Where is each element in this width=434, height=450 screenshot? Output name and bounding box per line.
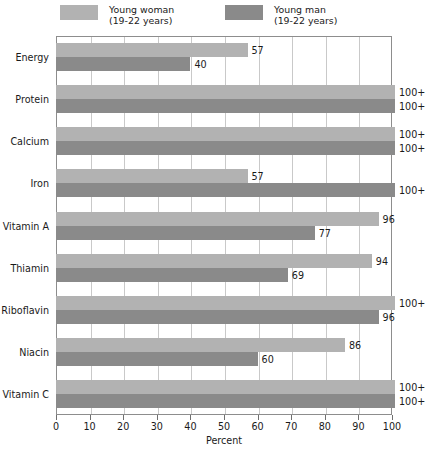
legend-item-young-woman: Young woman(19-22 years) <box>60 5 174 26</box>
bar-group: 100+100+ <box>56 85 392 113</box>
bar-protein-young-woman <box>56 85 395 99</box>
x-axis-tick-label: 70 <box>285 421 297 432</box>
bar-row: 86 <box>56 338 392 352</box>
bar-thiamin-young-woman <box>56 254 372 268</box>
bar-value-label: 96 <box>379 213 395 224</box>
x-axis-tick-label: 10 <box>83 421 95 432</box>
x-axis-tick <box>325 415 326 420</box>
bar-value-label: 100+ <box>395 143 425 154</box>
bar-row: 57 <box>56 169 392 183</box>
bar-value-label: 100+ <box>395 101 425 112</box>
x-axis-tick-label: 40 <box>184 421 196 432</box>
bar-thiamin-young-man <box>56 268 288 282</box>
x-axis-tick-label: 30 <box>151 421 163 432</box>
bar-group: 9469 <box>56 254 392 282</box>
bar-group: 5740 <box>56 43 392 71</box>
bar-niacin-young-woman <box>56 338 345 352</box>
bar-value-label: 100+ <box>395 185 425 196</box>
bars-layer: 5740100+100+100+100+57100+96779469100+96… <box>56 36 392 415</box>
bar-row: 69 <box>56 268 392 282</box>
x-axis-tick <box>157 415 158 420</box>
bar-value-label: 60 <box>258 353 274 364</box>
x-axis-tick <box>358 415 359 420</box>
bar-group: 100+100+ <box>56 127 392 155</box>
bar-row: 100+ <box>56 394 392 408</box>
x-axis-tick-label: 20 <box>117 421 129 432</box>
legend-item-young-man: Young man(19-22 years) <box>225 5 337 26</box>
y-axis-label-vitamin-c: Vitamin C <box>3 388 50 399</box>
bar-value-label: 40 <box>190 59 206 70</box>
bar-value-label: 86 <box>345 339 361 350</box>
bar-value-label: 69 <box>288 269 304 280</box>
bar-vitamin-c-young-man <box>56 394 395 408</box>
bar-calcium-young-woman <box>56 127 395 141</box>
bar-group: 8660 <box>56 338 392 366</box>
bar-value-label: 100+ <box>395 87 425 98</box>
bar-value-label: 57 <box>248 171 264 182</box>
x-axis-tick <box>291 415 292 420</box>
bar-group: 100+100+ <box>56 380 392 408</box>
legend-label-young-man: Young man(19-22 years) <box>274 5 337 26</box>
bar-value-label: 77 <box>315 227 331 238</box>
bar-riboflavin-young-woman <box>56 296 395 310</box>
bar-value-label: 100+ <box>395 129 425 140</box>
x-axis-tick-label: 80 <box>319 421 331 432</box>
bar-value-label: 100+ <box>395 297 425 308</box>
legend-label-young-woman: Young woman(19-22 years) <box>109 5 174 26</box>
legend-swatch-young-woman <box>60 5 98 20</box>
bar-row: 100+ <box>56 296 392 310</box>
bar-vitamin-a-young-woman <box>56 212 379 226</box>
x-axis-title: Percent <box>56 435 392 446</box>
bar-value-label: 100+ <box>395 381 425 392</box>
bar-group: 57100+ <box>56 169 392 197</box>
bar-row: 100+ <box>56 85 392 99</box>
bar-group: 9677 <box>56 212 392 240</box>
bar-row: 100+ <box>56 127 392 141</box>
y-axis-label-iron: Iron <box>30 178 49 189</box>
bar-row: 40 <box>56 57 392 71</box>
x-axis-tick-label: 100 <box>383 421 401 432</box>
bar-niacin-young-man <box>56 352 258 366</box>
bar-iron-young-woman <box>56 169 248 183</box>
legend-swatch-young-man <box>225 5 263 20</box>
y-axis-label-protein: Protein <box>15 94 49 105</box>
x-axis-tick-label: 90 <box>352 421 364 432</box>
x-axis-tick <box>258 415 259 420</box>
bar-row: 94 <box>56 254 392 268</box>
y-axis-labels: EnergyProteinCalciumIronVitamin AThiamin… <box>0 36 52 415</box>
bar-value-label: 57 <box>248 45 264 56</box>
x-axis-tick <box>123 415 124 420</box>
bar-row: 100+ <box>56 183 392 197</box>
bar-row: 60 <box>56 352 392 366</box>
bar-vitamin-c-young-woman <box>56 380 395 394</box>
x-axis-tick-label: 60 <box>251 421 263 432</box>
chart-legend: Young woman(19-22 years) Young man(19-22… <box>0 0 434 34</box>
bar-energy-young-woman <box>56 43 248 57</box>
legend-label-young-woman-line2: (19-22 years) <box>109 16 174 27</box>
bar-group: 100+96 <box>56 296 392 324</box>
x-axis-tick <box>190 415 191 420</box>
y-axis-label-thiamin: Thiamin <box>10 262 49 273</box>
x-axis-tick-label: 0 <box>53 421 59 432</box>
bar-value-label: 94 <box>372 255 388 266</box>
bar-iron-young-man <box>56 183 395 197</box>
y-axis-label-energy: Energy <box>15 52 49 63</box>
y-axis-label-vitamin-a: Vitamin A <box>3 220 49 231</box>
x-axis-tick <box>56 415 57 420</box>
bar-row: 100+ <box>56 141 392 155</box>
x-axis-tick-label: 50 <box>218 421 230 432</box>
bar-riboflavin-young-man <box>56 310 379 324</box>
bar-row: 57 <box>56 43 392 57</box>
legend-label-young-man-line1: Young man <box>274 4 326 15</box>
bar-row: 77 <box>56 226 392 240</box>
x-axis-tick <box>392 415 393 420</box>
x-axis-tick <box>224 415 225 420</box>
y-axis-label-niacin: Niacin <box>19 346 49 357</box>
bar-chart: Young woman(19-22 years) Young man(19-22… <box>0 0 434 450</box>
bar-calcium-young-man <box>56 141 395 155</box>
bar-vitamin-a-young-man <box>56 226 315 240</box>
bar-row: 96 <box>56 310 392 324</box>
bar-row: 100+ <box>56 380 392 394</box>
bar-value-label: 100+ <box>395 395 425 406</box>
bar-row: 100+ <box>56 99 392 113</box>
